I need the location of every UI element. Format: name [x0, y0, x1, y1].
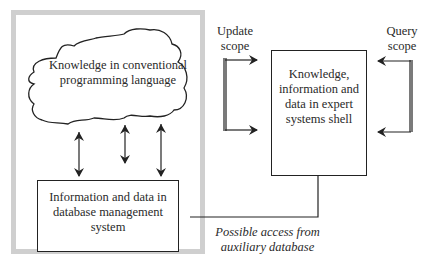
expert-shell-label: Knowledge, information and data in exper…	[271, 67, 367, 127]
update-scope-label: Update scope	[210, 24, 260, 54]
cloud-label: Knowledge in conventional programming la…	[38, 58, 198, 88]
auxiliary-access-label: Possible access from auxiliary database	[205, 225, 330, 255]
query-scope-label: Query scope	[380, 24, 421, 54]
database-label: Information and data in database managem…	[37, 190, 179, 235]
